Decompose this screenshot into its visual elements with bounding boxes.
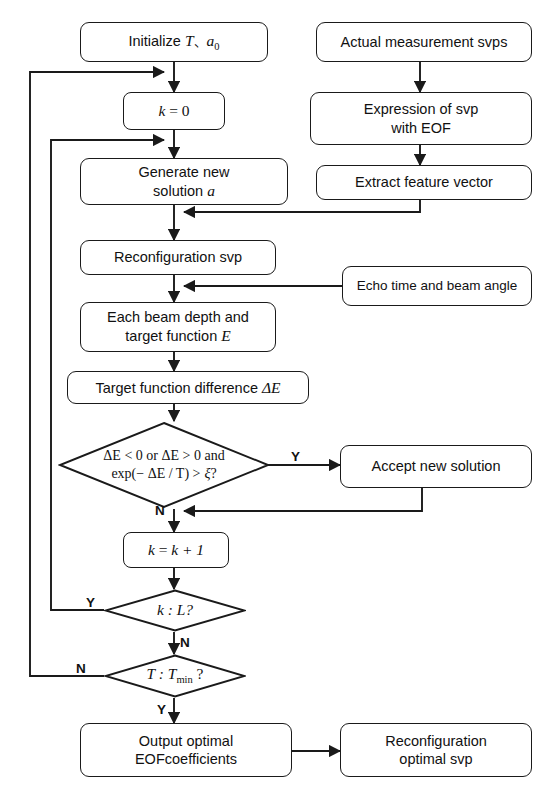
kinc-rhs: k + 1 xyxy=(171,541,204,558)
node-actual-measurement[interactable]: Actual measurement svps xyxy=(316,22,532,62)
node-each-beam-depth[interactable]: Each beam depth and target function E xyxy=(80,302,276,352)
decision-t-lhs: T : T xyxy=(147,665,177,682)
node-generate-solution[interactable]: Generate new solution a xyxy=(80,158,288,205)
node-initialize[interactable]: Initialize T、a0 xyxy=(80,22,268,62)
node-expression-eof-label: Expression of svp with EOF xyxy=(316,100,526,136)
node-generate-solution-label: Generate new solution a xyxy=(86,163,282,201)
kinc-lhs: k xyxy=(148,541,155,558)
node-reconfiguration-optimal[interactable]: Reconfiguration optimal svp xyxy=(340,723,532,777)
branch-label-t-yes: Y xyxy=(157,703,166,717)
node-reconfiguration-optimal-label: Reconfiguration optimal svp xyxy=(346,732,526,768)
initialize-var-t: T xyxy=(185,32,194,49)
reconfigopt-line2: optimal svp xyxy=(399,751,472,767)
node-target-function-difference[interactable]: Target function difference ΔE xyxy=(67,371,309,404)
accept-new-solution-label: Accept new solution xyxy=(346,457,526,475)
decision-k-label: k : L? xyxy=(104,589,246,632)
decision-energy-line1: ΔE < 0 or ΔE > 0 and xyxy=(103,448,224,463)
branch-label-t-no: N xyxy=(76,662,86,676)
expression-line1: Expression of svp xyxy=(364,101,478,117)
node-each-beam-depth-label: Each beam depth and target function E xyxy=(86,308,270,346)
node-k-increment-label: k = k + 1 xyxy=(129,540,223,559)
node-initialize-label: Initialize T、a0 xyxy=(86,31,262,53)
eachbeam-var: E xyxy=(221,327,230,344)
decision-t-sub: min xyxy=(176,674,192,685)
flowchart-canvas: Initialize T、a0 k = 0 Generate new solut… xyxy=(0,0,542,798)
decision-k-text: k : L? xyxy=(157,601,193,620)
expression-line2: with EOF xyxy=(391,120,451,136)
decision-energy-acceptance[interactable]: ΔE < 0 or ΔE > 0 and exp(− ΔE / T) > ξ? xyxy=(58,421,270,509)
node-reconfiguration-svp[interactable]: Reconfiguration svp xyxy=(80,240,276,275)
node-k-increment[interactable]: k = k + 1 xyxy=(123,532,229,568)
branch-label-energy-no: N xyxy=(155,504,165,518)
kinc-eq: = xyxy=(159,541,168,558)
node-k-zero-label: k = 0 xyxy=(129,101,219,120)
k-zero-rhs: 0 xyxy=(182,102,190,119)
decision-energy-line2-prefix: exp(− ΔE / T) > xyxy=(111,466,200,481)
node-output-optimal[interactable]: Output optimal EOFcoefficients xyxy=(80,723,292,777)
eachbeam-line2: target function xyxy=(125,328,217,344)
actual-measurement-label: Actual measurement svps xyxy=(322,33,526,51)
decision-temperature[interactable]: T : Tmin ? xyxy=(104,654,246,698)
initialize-text: Initialize xyxy=(128,33,180,49)
node-echo-time-beam-angle[interactable]: Echo time and beam angle xyxy=(342,266,532,306)
decision-energy-line2-suffix: ? xyxy=(210,466,216,481)
echo-time-label: Echo time and beam angle xyxy=(348,278,526,295)
branch-label-k-yes: Y xyxy=(86,596,95,610)
node-k-zero[interactable]: k = 0 xyxy=(123,92,225,130)
node-target-function-difference-label: Target function difference ΔE xyxy=(73,378,303,397)
decision-temperature-label: T : Tmin ? xyxy=(104,654,246,698)
decision-t-suffix: ? xyxy=(197,665,204,682)
k-zero-eq: = xyxy=(169,102,178,119)
branch-label-k-no: N xyxy=(180,636,190,650)
node-accept-new-solution[interactable]: Accept new solution xyxy=(340,445,532,488)
branch-label-energy-yes: Y xyxy=(291,450,300,464)
output-line2: EOFcoefficients xyxy=(135,751,237,767)
initialize-separator: 、 xyxy=(194,34,207,49)
decision-k-limit[interactable]: k : L? xyxy=(104,589,246,632)
output-line1: Output optimal xyxy=(139,733,233,749)
targetdiff-var: ΔE xyxy=(262,379,281,396)
node-output-optimal-label: Output optimal EOFcoefficients xyxy=(86,732,286,768)
node-expression-eof[interactable]: Expression of svp with EOF xyxy=(310,92,532,145)
targetdiff-text: Target function difference xyxy=(95,380,258,396)
extract-feature-label: Extract feature vector xyxy=(322,173,526,191)
k-zero-lhs: k xyxy=(158,102,165,119)
node-extract-feature-vector[interactable]: Extract feature vector xyxy=(316,165,532,200)
generate-var: a xyxy=(207,182,215,199)
decision-energy-label: ΔE < 0 or ΔE > 0 and exp(− ΔE / T) > ξ? xyxy=(58,421,270,509)
eachbeam-line1: Each beam depth and xyxy=(107,309,249,325)
initialize-var-a-sub: 0 xyxy=(214,41,219,52)
reconfiguration-svp-label: Reconfiguration svp xyxy=(86,248,270,266)
reconfigopt-line1: Reconfiguration xyxy=(385,733,487,749)
decision-temperature-text: T : Tmin ? xyxy=(147,665,204,687)
generate-line1: Generate new xyxy=(138,164,229,180)
generate-line2: solution xyxy=(153,183,203,199)
